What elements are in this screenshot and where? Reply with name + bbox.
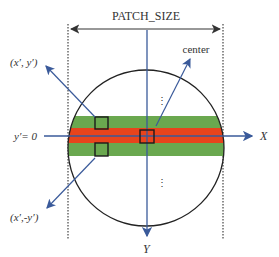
patch-diagram: PATCH_SIZE center (x′, y′) (x′,-y′) y′= …: [0, 0, 279, 257]
lower-ellipsis: ⋮: [157, 177, 167, 188]
patch-size-label: PATCH_SIZE: [112, 9, 180, 23]
center-label: center: [183, 43, 210, 55]
upper-point-label: (x′, y′): [10, 56, 38, 69]
y-zero-label: y′= 0: [13, 130, 37, 142]
lower-point-label: (x′,-y′): [10, 211, 39, 224]
y-axis-label: Y: [143, 242, 151, 256]
upper-ellipsis: ⋮: [157, 95, 167, 106]
upper-point-arrow: [46, 66, 95, 117]
x-axis-label: X: [259, 129, 268, 143]
center-arrow: [156, 59, 190, 126]
